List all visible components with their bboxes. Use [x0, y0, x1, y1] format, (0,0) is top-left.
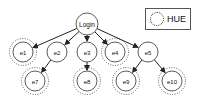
node-login: Login: [76, 13, 98, 35]
node-label: Login: [79, 21, 95, 29]
edge-e2-e7: [42, 60, 51, 72]
node-label: e3: [84, 50, 91, 56]
node-e3: e3: [77, 42, 97, 62]
hue-ring-icon: [150, 12, 164, 26]
node-label: e4: [112, 50, 119, 56]
edge-e5-e9: [133, 60, 142, 72]
edge-login-e2: [65, 32, 79, 45]
node-label: e1: [20, 50, 27, 56]
node-e8: e8: [74, 68, 101, 95]
node-e5: e5: [138, 42, 158, 62]
node-e10: e10: [159, 68, 186, 95]
node-label: e5: [145, 50, 152, 56]
node-label: e7: [32, 79, 39, 85]
node-e7: e7: [22, 68, 49, 95]
node-e9: e9: [113, 68, 140, 95]
node-label: e10: [167, 79, 178, 85]
node-e4: e4: [102, 39, 129, 66]
node-label: e8: [84, 79, 91, 85]
node-e2: e2: [47, 42, 67, 62]
legend: HUE: [145, 8, 191, 30]
node-e1: e1: [10, 39, 37, 66]
legend-label: HUE: [167, 13, 186, 25]
node-label: e9: [123, 79, 130, 85]
edge-e5-e10: [154, 60, 165, 73]
node-label: e2: [54, 50, 61, 56]
